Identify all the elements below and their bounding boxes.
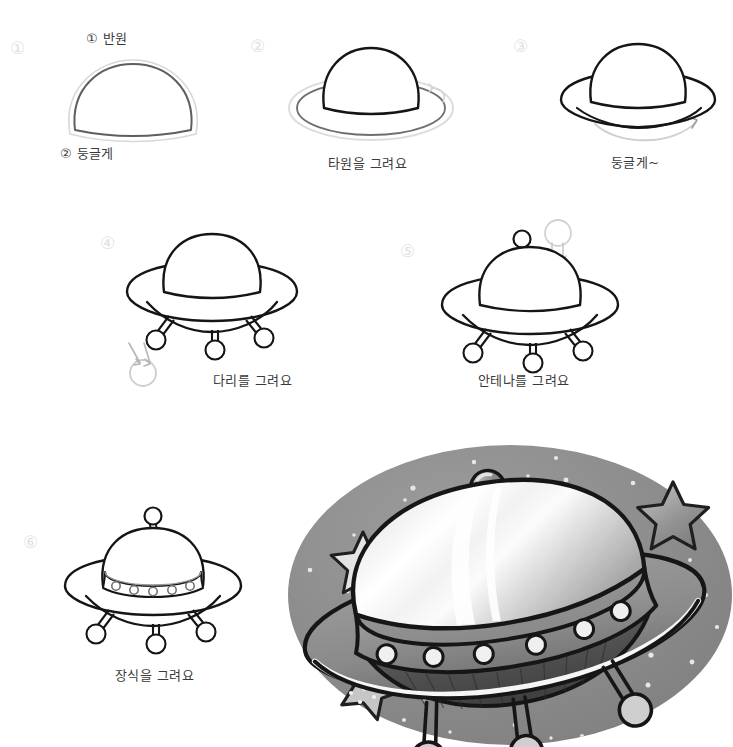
tutorial-page: ① ① 반원 ② 둥글게 ② 타원을 그려요 ③ 둥글게~ <box>0 0 733 747</box>
step-2-number: ② <box>250 38 265 55</box>
step-3-number: ③ <box>513 38 528 55</box>
step-3-artwork <box>543 38 733 158</box>
step-1-artwork <box>48 50 218 145</box>
final-illustration <box>288 440 733 747</box>
step-6-number: ⑥ <box>23 534 38 551</box>
step-4-number: ④ <box>100 235 115 252</box>
step-1-number: ① <box>10 40 25 57</box>
step-5-number: ⑤ <box>400 243 415 260</box>
step-4-hint <box>117 333 177 391</box>
step-1-caption-top: ① 반원 <box>86 28 127 47</box>
step-2-artwork <box>281 40 461 155</box>
step-4: ④ 다리를 그려요 <box>95 215 395 410</box>
step-5-artwork <box>430 213 630 373</box>
step-2-caption: 타원을 그려요 <box>328 153 407 172</box>
step-1-caption-bottom: ② 둥글게 <box>60 143 114 162</box>
step-5: ⑤ 안테나를 그려요 <box>395 205 695 410</box>
step-6-artwork <box>53 498 253 668</box>
step-3: ③ 둥글게~ <box>491 20 733 190</box>
step-2: ② 타원을 그려요 <box>243 20 491 190</box>
step-1: ① ① 반원 ② 둥글게 <box>0 20 243 190</box>
step-6: ⑥ 장식을 그려요 <box>15 480 305 710</box>
